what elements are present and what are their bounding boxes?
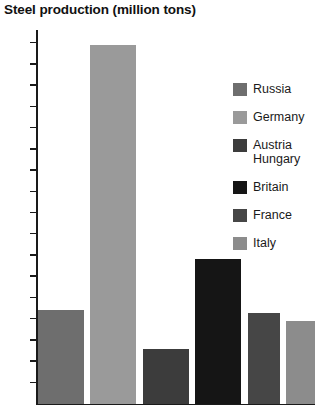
bar-russia bbox=[38, 310, 84, 403]
legend-swatch-icon bbox=[233, 181, 247, 194]
bar-britain bbox=[195, 259, 241, 403]
legend-label-second-line: Hungary bbox=[253, 152, 300, 166]
y-axis-tick-mark bbox=[30, 382, 36, 384]
legend-label: Austria bbox=[253, 138, 292, 152]
y-axis-tick-mark bbox=[30, 148, 36, 150]
chart-title: Steel production (million tons) bbox=[4, 2, 196, 17]
y-axis-tick-mark bbox=[30, 106, 36, 108]
legend-swatch-icon bbox=[233, 237, 247, 250]
y-axis-tick-mark bbox=[30, 360, 36, 362]
y-axis-tick-mark bbox=[30, 191, 36, 193]
legend-swatch-icon bbox=[233, 209, 247, 222]
y-axis-tick-mark bbox=[30, 275, 36, 277]
legend-item-france[interactable]: France bbox=[233, 208, 315, 222]
y-axis-tick-mark bbox=[30, 42, 36, 44]
y-axis-tick-mark bbox=[30, 297, 36, 299]
legend-item-germany[interactable]: Germany bbox=[233, 110, 315, 124]
legend-item-britain[interactable]: Britain bbox=[233, 180, 315, 194]
legend-item-austria[interactable]: AustriaHungary bbox=[233, 138, 315, 166]
legend-label: France bbox=[253, 208, 292, 222]
bar-france bbox=[248, 313, 280, 403]
steel-production-bar-chart: Steel production (million tons) 12345678… bbox=[0, 0, 315, 416]
x-axis-line bbox=[36, 404, 315, 406]
legend-label: Britain bbox=[253, 180, 288, 194]
bar-austria-hungary bbox=[143, 349, 189, 403]
legend-label: Russia bbox=[253, 82, 291, 96]
y-axis-tick-mark bbox=[30, 212, 36, 214]
y-axis-tick-mark bbox=[30, 339, 36, 341]
y-axis-tick-mark bbox=[30, 127, 36, 129]
y-axis-tick-mark bbox=[30, 84, 36, 86]
y-axis-tick-mark bbox=[30, 63, 36, 65]
y-axis-tick-mark bbox=[30, 254, 36, 256]
legend-label: Germany bbox=[253, 110, 304, 124]
legend-swatch-icon bbox=[233, 111, 247, 124]
y-axis-tick-mark bbox=[30, 169, 36, 171]
bar-italy bbox=[286, 321, 316, 404]
legend-item-russia[interactable]: Russia bbox=[233, 82, 315, 96]
y-axis-tick-mark bbox=[30, 233, 36, 235]
legend-swatch-icon bbox=[233, 139, 247, 152]
legend-item-italy[interactable]: Italy bbox=[233, 236, 315, 250]
bar-germany bbox=[90, 45, 136, 404]
y-axis-tick-mark bbox=[30, 318, 36, 320]
legend-swatch-icon bbox=[233, 83, 247, 96]
legend-label: Italy bbox=[253, 236, 276, 250]
